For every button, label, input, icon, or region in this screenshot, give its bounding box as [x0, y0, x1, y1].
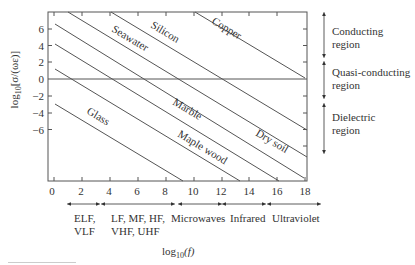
y-axis-label: log10[σ/(ωε)]	[8, 32, 23, 127]
x-tick-label: 4	[106, 185, 112, 197]
line-maple-wood	[55, 69, 240, 181]
line-glass	[55, 104, 183, 181]
line-silicon	[111, 12, 307, 130]
x-tick-label: 12	[216, 185, 227, 197]
label-copper: Copper	[210, 14, 244, 41]
y-ticks	[48, 29, 307, 146]
x-axis-label: log10(f)	[162, 245, 194, 260]
label-glass: Glass	[85, 104, 112, 127]
y-tick-label: −4	[32, 107, 44, 119]
region-label-conducting: Conductingregion	[332, 25, 383, 51]
band-label-lf-uhf: LF, MF, HF,VHF, UHF	[111, 212, 165, 238]
x-tick-label: 14	[244, 185, 256, 197]
x-tick-label: 8	[162, 185, 168, 197]
label-seawater: Seawater	[110, 22, 151, 53]
label-silicon: Silicon	[149, 18, 182, 45]
y-tick-label: −2	[32, 90, 44, 102]
band-label-infrared: Infrared	[230, 212, 265, 225]
y-tick-label: 0	[39, 73, 45, 85]
x-tick-label: 10	[188, 185, 200, 197]
band-label-elf-vlf: ELF,VLF	[74, 212, 95, 238]
x-tick-label: 18	[300, 185, 312, 197]
y-tick-label: 4	[39, 40, 45, 52]
y-tick-label: −6	[32, 124, 44, 136]
y-tick-label: 2	[39, 56, 45, 68]
region-label-dielectric: Dielectricregion	[332, 111, 375, 137]
region-label-quasi-conducting: Quasi-conductingregion	[332, 66, 410, 92]
caption-rule	[8, 262, 76, 263]
x-tick-label: 6	[134, 185, 140, 197]
x-tick-label: 16	[272, 185, 284, 197]
y-tick-label: 6	[39, 23, 45, 35]
x-tick-label: 0	[49, 185, 55, 197]
band-label-microwaves: Microwaves	[171, 212, 225, 225]
band-label-ultraviolet: Ultraviolet	[272, 212, 320, 225]
x-tick-label: 2	[78, 185, 84, 197]
